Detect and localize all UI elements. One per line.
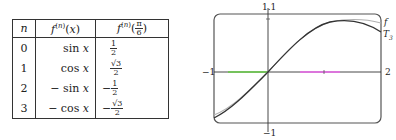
curve-T3 <box>214 20 381 118</box>
taylor-plot <box>0 0 396 140</box>
x-max-label: 2 <box>385 67 391 77</box>
y-min-label: −1 <box>263 128 276 138</box>
legend-f: f <box>384 17 387 27</box>
x-min-label: −1 <box>202 67 215 77</box>
plot-frame <box>214 14 381 123</box>
legend-T3: T3 <box>383 29 393 41</box>
y-max-label: 1.1 <box>262 2 276 12</box>
